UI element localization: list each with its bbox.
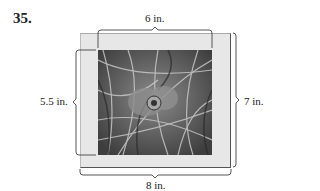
top-brace [98,27,212,48]
left-brace [73,50,96,155]
frame-width-label: 8 in. [146,179,166,191]
photo-width-label: 6 in. [145,12,165,24]
photo-height-label: 5.5 in. [40,95,68,107]
right-brace [233,33,239,167]
frame-height-label: 7 in. [244,95,264,107]
bottom-brace [80,169,231,178]
